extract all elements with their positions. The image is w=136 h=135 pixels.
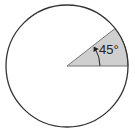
sector-diagram: 45° [0,0,136,135]
angle-label: 45° [99,42,119,57]
